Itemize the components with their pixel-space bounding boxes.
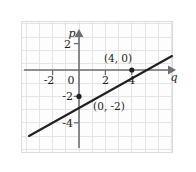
y-tick-label-neg2: -2 — [62, 90, 73, 103]
x-tick-label-pos4: 4 — [128, 74, 135, 87]
coordinate-plane-figure: p q -2 0 2 4 2 -2 -4 (4, 0) (0, -2) — [0, 0, 196, 172]
x-tick-label-pos2: 2 — [102, 74, 109, 87]
point-marker-0-neg2 — [76, 94, 81, 99]
x-tick-label-neg2: -2 — [44, 74, 55, 87]
point-label-0-neg2: (0, -2) — [93, 100, 125, 112]
point-label-4-0: (4, 0) — [104, 52, 132, 64]
coordinate-plane-svg: p q -2 0 2 4 2 -2 -4 (4, 0) (0, -2) — [0, 0, 196, 172]
point-marker-4-0 — [129, 67, 134, 72]
y-tick-label-neg4: -4 — [62, 117, 73, 130]
q-axis-label: q — [170, 71, 177, 84]
y-tick-label-pos2: 2 — [64, 38, 71, 51]
x-tick-label-zero: 0 — [68, 74, 75, 87]
